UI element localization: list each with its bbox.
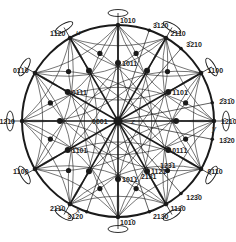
inner-pole-dot	[115, 176, 121, 182]
rim-pole-dot	[20, 119, 24, 123]
rim-pole-dot	[179, 192, 183, 196]
rim-pole-dot	[33, 71, 37, 75]
center-label: 0001	[92, 118, 108, 125]
inner-pole-dot	[66, 168, 71, 173]
rim-pole-dot	[68, 202, 72, 206]
center-pole-dot	[114, 117, 123, 126]
rim-pole-label: 13̄20	[219, 137, 235, 144]
inner-pole-dot	[183, 137, 188, 142]
inner-pole-dot	[66, 69, 71, 74]
rim-pole-label: 2̄110	[171, 30, 186, 37]
rim-pole-label: 1̄100	[13, 168, 29, 175]
rim-pole-label: 01̄10	[13, 67, 29, 74]
rim-pole-dot	[179, 47, 183, 51]
inner-pole-label: 21̄3̄1	[141, 173, 157, 180]
inner-pole-dot	[65, 89, 71, 95]
inner-pole-label: 1̄101	[172, 89, 188, 96]
rim-pole-label: 213̄0	[153, 213, 169, 220]
axis-label-u: u	[76, 28, 81, 37]
inner-pole-dot	[97, 186, 102, 191]
rim-pole-label: 1̄1̄20	[50, 30, 66, 37]
inner-pole-dot	[165, 69, 170, 74]
inner-pole-label: 01̄11	[72, 89, 87, 96]
inner-pole-dot	[144, 68, 150, 74]
rim-pole-dot	[199, 167, 203, 171]
inner-pole-label: 1̄011	[122, 60, 137, 67]
inner-pole-dot	[48, 137, 53, 142]
rim-pole-dot	[68, 36, 72, 40]
rim-pole-dot	[212, 119, 216, 123]
axis-label-z: z	[130, 117, 135, 126]
rim-pole-dot	[33, 167, 37, 171]
inner-pole-label: 011̄1	[172, 147, 187, 154]
rim-pole-label: 2̄31̄0	[219, 98, 235, 105]
rim-pole-label: 101̄0	[120, 219, 136, 226]
inner-pole-dot	[134, 186, 139, 191]
rim-pole-dot	[199, 71, 203, 75]
inner-pole-dot	[134, 51, 139, 56]
inner-pole-dot	[183, 100, 188, 105]
inner-pole-dot	[165, 147, 171, 153]
inner-pole-label: 101̄1	[122, 176, 138, 183]
rim-pole-label: 123̄0	[186, 194, 202, 201]
inner-pole-dot	[65, 147, 71, 153]
rim-pole-label: 1̄010	[120, 17, 136, 24]
rim-pole-dot	[210, 101, 214, 105]
rim-pole-dot	[147, 28, 151, 32]
rim-pole-label: 3̄210	[186, 41, 202, 48]
rim-pole-dot	[164, 36, 168, 40]
inner-pole-dot	[86, 168, 92, 174]
rim-pole-label: 3̄120	[153, 22, 169, 29]
rim-pole-dot	[164, 202, 168, 206]
stereographic-projection: 1̄0103̄1202̄1103̄2101̄1002̄31̄01̄21̄013̄…	[0, 0, 236, 242]
inner-pole-label: 123̄1	[160, 162, 176, 169]
inner-pole-label: 1̄101	[72, 147, 88, 154]
rim-pole-dot	[210, 138, 214, 142]
rim-pole-label: 011̄0	[207, 168, 222, 175]
rim-pole-label: 112̄0	[171, 205, 186, 212]
rim-pole-dot	[85, 210, 89, 214]
inner-pole-dot	[86, 68, 92, 74]
axis-label-y: y	[211, 124, 217, 133]
inner-pole-dot	[115, 60, 121, 66]
inner-pole-dot	[97, 51, 102, 56]
inner-pole-dot	[57, 118, 63, 124]
rim-pole-label: 21̄1̄0	[50, 205, 66, 212]
inner-pole-dot	[165, 89, 171, 95]
rim-pole-label: 1̄21̄0	[221, 118, 236, 125]
inner-pole-dot	[48, 100, 53, 105]
rim-pole-label: 12̄10	[0, 118, 15, 125]
rim-pole-dot	[147, 210, 151, 214]
rim-pole-label: 1̄100	[207, 67, 223, 74]
inner-pole-dot	[173, 118, 179, 124]
